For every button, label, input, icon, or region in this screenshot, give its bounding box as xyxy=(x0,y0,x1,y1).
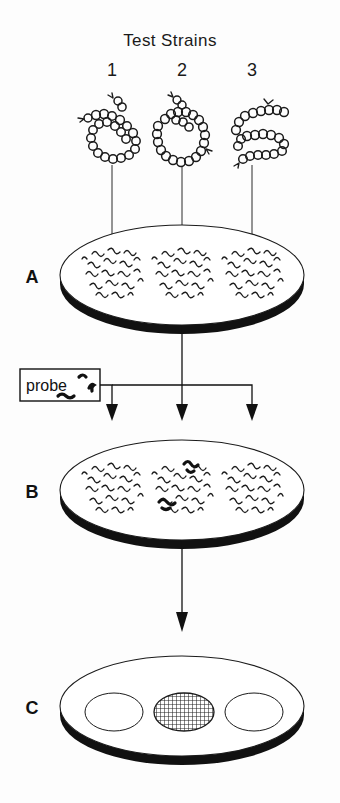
column-number-1: 1 xyxy=(107,60,117,80)
probe-box: probe xyxy=(20,369,100,401)
result-spot-2-positive xyxy=(154,693,214,731)
diagram-svg: Test Strains 1 2 3 xyxy=(0,0,340,803)
column-number-3: 3 xyxy=(247,60,257,80)
panel-a: A xyxy=(26,225,305,334)
supercoiled-plasmid-circle-icon xyxy=(78,93,140,163)
panel-label-c: C xyxy=(26,698,39,718)
relaxed-plasmid-circle-icon xyxy=(153,92,212,166)
probe-label: probe xyxy=(26,377,67,394)
panel-label-a: A xyxy=(26,267,39,287)
figure-canvas: Test Strains 1 2 3 xyxy=(0,0,340,803)
figure-title: Test Strains xyxy=(123,31,217,50)
probe-branch-left xyxy=(100,385,112,405)
linear-dna-strand-icon xyxy=(232,99,289,168)
arrowhead-b-right xyxy=(246,404,258,421)
panel-label-b: B xyxy=(26,482,39,502)
panel-c: C xyxy=(26,656,305,765)
bound-probe-b-bottom2 xyxy=(162,508,170,510)
arrowhead-b-left xyxy=(106,404,118,421)
panel-b: B xyxy=(26,440,305,549)
column-number-2: 2 xyxy=(177,60,187,80)
result-spot-1 xyxy=(85,693,143,731)
arrowhead-b-center xyxy=(176,404,188,421)
arrowhead-c xyxy=(176,612,188,632)
result-spot-3 xyxy=(225,693,283,731)
